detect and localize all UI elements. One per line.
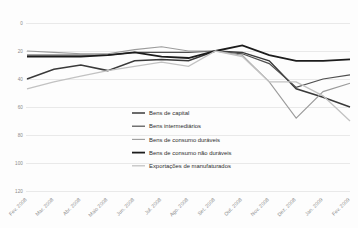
legend-label: Bens intermediários (149, 123, 201, 129)
x-axis-tick-label: Fev. 2008 (7, 196, 27, 216)
legend-label: Bens de consumo não duráveis (149, 150, 232, 156)
bottom-margin (0, 228, 358, 239)
x-axis-tick-labels: Fev. 2008Mar. 2008Abr. 2008Maio 2008Jun.… (7, 196, 350, 217)
x-axis-tick-label: Fev. 2009 (330, 196, 350, 216)
y-axis-tick-label: 40 (18, 77, 24, 82)
x-axis-tick-label: Dez. 2008 (276, 196, 297, 217)
y-axis-tick-label: 120 (15, 189, 23, 194)
x-axis-tick-label: Jun. 2008 (115, 196, 135, 216)
y-axis-tick-labels: 120100806040200 (15, 21, 23, 194)
chart-canvas: 120100806040200 Fev. 2008Mar. 2008Abr. 2… (0, 0, 358, 239)
y-axis-tick-label: 80 (18, 133, 24, 138)
x-axis-tick-label: Nov. 2008 (249, 196, 270, 217)
legend-label: Bens de capital (149, 110, 189, 116)
y-axis-tick-label: 20 (18, 49, 24, 54)
x-axis-tick-label: Jul. 2008 (143, 196, 162, 215)
line-chart: 120100806040200 Fev. 2008Mar. 2008Abr. 2… (0, 0, 358, 239)
y-axis-tick-label: 0 (20, 21, 23, 26)
legend-label: Bens de consumo duráveis (149, 137, 220, 143)
x-axis-tick-label: Ago. 2008 (168, 196, 189, 217)
y-axis-tick-label: 100 (15, 161, 23, 166)
x-axis-tick-label: Abr. 2008 (62, 196, 82, 216)
x-axis-tick-label: Mar. 2008 (34, 196, 55, 217)
x-axis-tick-label: Maio 2008 (87, 196, 108, 217)
y-axis-tick-label: 60 (18, 105, 24, 110)
chart-legend: Bens de capitalBens intermediáriosBens d… (132, 110, 232, 169)
x-axis-tick-label: Jan. 2009 (303, 196, 323, 216)
x-axis-tick-label: Set. 2008 (196, 196, 216, 216)
legend-label: Exportações de manufaturados (149, 163, 231, 169)
x-axis-tick-label: Out. 2008 (223, 196, 243, 216)
